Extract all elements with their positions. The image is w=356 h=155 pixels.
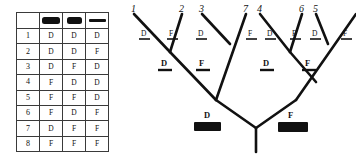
leaf-number: 4 bbox=[257, 3, 262, 14]
cell-state: D bbox=[63, 105, 86, 120]
tree-branches-left bbox=[134, 14, 246, 100]
phylogenetic-tree: 1 2 3 7 4 6 5 D F D F D F bbox=[120, 0, 356, 155]
leaf-state: F bbox=[248, 29, 252, 38]
root-state-block bbox=[278, 122, 308, 132]
tree-branches-right bbox=[260, 14, 356, 100]
leaf-state: D bbox=[312, 29, 318, 38]
leaf-state: D bbox=[141, 29, 147, 38]
root-state-labels: D F bbox=[194, 110, 308, 132]
cell-state: D bbox=[86, 90, 109, 105]
matrix-header-char-1 bbox=[40, 13, 63, 29]
leaf-number: 1 bbox=[131, 3, 136, 14]
leaf-number: 5 bbox=[313, 3, 318, 14]
table-row: 1 D D D bbox=[17, 29, 109, 44]
cell-state: F bbox=[86, 136, 109, 151]
cell-state: D bbox=[40, 29, 63, 44]
cell-state: D bbox=[40, 121, 63, 136]
leaf-state: D bbox=[267, 29, 273, 38]
matrix-header-char-2 bbox=[63, 13, 86, 29]
row-label: 6 bbox=[17, 105, 40, 120]
cell-state: F bbox=[40, 105, 63, 120]
leaf-state: D bbox=[198, 29, 204, 38]
matrix-table: 1 D D D 2 D D F 3 D F D 4 bbox=[16, 12, 109, 152]
leaf-number: 3 bbox=[198, 3, 204, 14]
row-label: 2 bbox=[17, 44, 40, 59]
cell-state: D bbox=[63, 29, 86, 44]
cell-state: F bbox=[63, 90, 86, 105]
thin-line-bar-icon bbox=[89, 19, 106, 22]
row-label: 3 bbox=[17, 59, 40, 74]
cell-state: F bbox=[63, 136, 86, 151]
leaf-number: 7 bbox=[243, 3, 249, 14]
leaf-state: F bbox=[169, 29, 173, 38]
table-row: 6 F D F bbox=[17, 105, 109, 120]
table-row: 7 D F F bbox=[17, 121, 109, 136]
cell-state: F bbox=[86, 44, 109, 59]
internal-state: D bbox=[263, 58, 269, 68]
matrix-body: 1 D D D 2 D D F 3 D F D 4 bbox=[17, 13, 109, 152]
row-label: 8 bbox=[17, 136, 40, 151]
cell-state: F bbox=[63, 121, 86, 136]
row-label: 4 bbox=[17, 75, 40, 90]
figure-root: 1 D D D 2 D D F 3 D F D 4 bbox=[0, 0, 356, 155]
leaf-number: 2 bbox=[179, 3, 184, 14]
cell-state: F bbox=[40, 75, 63, 90]
internal-state: D bbox=[161, 58, 167, 68]
table-row: 4 F D D bbox=[17, 75, 109, 90]
tree-svg: 1 2 3 7 4 6 5 D F D F D F bbox=[120, 0, 356, 155]
row-label: 1 bbox=[17, 29, 40, 44]
cell-state: F bbox=[86, 105, 109, 120]
row-label: 5 bbox=[17, 90, 40, 105]
cell-state: D bbox=[40, 44, 63, 59]
table-row: 2 D D F bbox=[17, 44, 109, 59]
character-state-matrix: 1 D D D 2 D D F 3 D F D 4 bbox=[16, 12, 109, 146]
cell-state: F bbox=[40, 90, 63, 105]
root-state: F bbox=[288, 110, 293, 120]
cell-state: D bbox=[63, 44, 86, 59]
root-state-block bbox=[194, 122, 221, 131]
matrix-header-char-3 bbox=[86, 13, 109, 29]
matrix-header-row bbox=[17, 13, 109, 29]
cell-state: D bbox=[86, 59, 109, 74]
internal-state: F bbox=[305, 58, 310, 68]
cell-state: F bbox=[86, 121, 109, 136]
table-row: 3 D F D bbox=[17, 59, 109, 74]
cell-state: D bbox=[86, 29, 109, 44]
matrix-corner-cell bbox=[17, 13, 40, 29]
row-label: 7 bbox=[17, 121, 40, 136]
cell-state: D bbox=[63, 75, 86, 90]
medium-filled-bar-icon bbox=[67, 17, 82, 24]
cell-state: D bbox=[40, 59, 63, 74]
table-row: 5 F F D bbox=[17, 90, 109, 105]
root-state: D bbox=[204, 110, 210, 120]
cell-state: D bbox=[86, 75, 109, 90]
cell-state: F bbox=[63, 59, 86, 74]
leaf-state: F bbox=[343, 29, 347, 38]
cell-state: F bbox=[40, 136, 63, 151]
wide-filled-bar-icon bbox=[42, 17, 60, 24]
leaf-state-labels: D F D F D F D F bbox=[139, 29, 352, 39]
table-row: 8 F F F bbox=[17, 136, 109, 151]
internal-state: F bbox=[199, 58, 204, 68]
leaf-number: 6 bbox=[299, 3, 304, 14]
leaf-state: F bbox=[292, 29, 296, 38]
